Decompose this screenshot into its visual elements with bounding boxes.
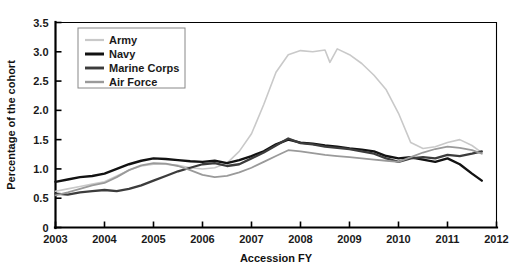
legend-label-navy: Navy — [109, 48, 136, 60]
series-line-marine-corps — [56, 138, 482, 194]
legend-label-air-force: Air Force — [109, 76, 157, 88]
y-tick-label: 2.0 — [33, 104, 48, 116]
x-tick-label: 2003 — [43, 233, 67, 245]
series-line-air-force — [56, 147, 482, 196]
y-axis-ticks: 00.51.01.52.02.53.03.5 — [33, 17, 61, 234]
legend-label-marine-corps: Marine Corps — [109, 62, 179, 74]
x-tick-label: 2006 — [190, 233, 214, 245]
x-tick-label: 2010 — [386, 233, 410, 245]
y-tick-label: 2.5 — [33, 75, 48, 87]
x-tick-label: 2007 — [239, 233, 263, 245]
x-axis-ticks: 2003200420052006200720082009201020112012 — [43, 222, 508, 245]
y-tick-label: 3.5 — [33, 17, 48, 29]
x-tick-label: 2011 — [436, 233, 460, 245]
x-axis-title: Accession FY — [240, 252, 313, 264]
x-tick-label: 2012 — [484, 233, 508, 245]
y-tick-label: 1.0 — [33, 163, 48, 175]
x-tick-label: 2009 — [337, 233, 361, 245]
legend: ArmyNavyMarine CorpsAir Force — [78, 28, 185, 88]
x-tick-label: 2004 — [92, 233, 117, 245]
x-tick-label: 2008 — [288, 233, 312, 245]
y-axis-title: Percentage of the cohort — [5, 60, 17, 190]
line-chart: 00.51.01.52.02.53.03.5 20032004200520062… — [0, 0, 516, 271]
legend-label-army: Army — [109, 34, 138, 46]
y-tick-label: 0.5 — [33, 192, 48, 204]
y-tick-label: 3.0 — [33, 46, 48, 58]
x-tick-label: 2005 — [141, 233, 165, 245]
y-tick-label: 1.5 — [33, 134, 48, 146]
chart-container: 00.51.01.52.02.53.03.5 20032004200520062… — [0, 0, 516, 271]
